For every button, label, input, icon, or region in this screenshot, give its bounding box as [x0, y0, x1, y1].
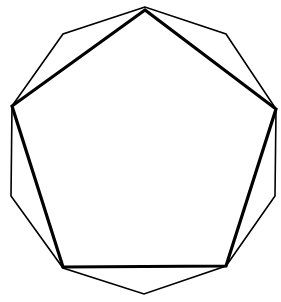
polygon-diagram [0, 0, 281, 302]
decagon-outline [11, 7, 276, 294]
